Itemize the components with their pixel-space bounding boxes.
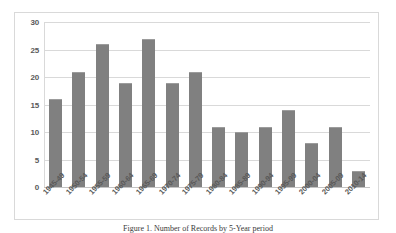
y-tick-label-10: 10 bbox=[31, 128, 40, 137]
bar-1950-54[interactable] bbox=[72, 72, 85, 188]
x-tick-slot: 1985-89 bbox=[230, 187, 253, 221]
bar-slot bbox=[347, 22, 370, 187]
bar-1965-69[interactable] bbox=[142, 39, 155, 188]
y-tick-label-25: 25 bbox=[31, 45, 40, 54]
x-tick-slot: 1995-99 bbox=[277, 187, 300, 221]
x-tick-slot: 1960-64 bbox=[114, 187, 137, 221]
y-tick-label-0: 0 bbox=[35, 183, 39, 192]
bar-slot bbox=[67, 22, 90, 187]
bar-slot bbox=[114, 22, 137, 187]
x-tick-slot: 1945-49 bbox=[44, 187, 67, 221]
bar-1955-59[interactable] bbox=[96, 44, 109, 187]
x-tick-slot: 1975-79 bbox=[184, 187, 207, 221]
x-tick-slot: 2005-09 bbox=[323, 187, 346, 221]
x-axis-tick-labels: 1945-491950-541955-591960-641965-691970-… bbox=[44, 187, 370, 221]
bar-slot bbox=[300, 22, 323, 187]
bar-slot bbox=[230, 22, 253, 187]
bar-slot bbox=[91, 22, 114, 187]
bar-slot bbox=[254, 22, 277, 187]
figure-root: 051015202530 1945-491950-541955-591960-6… bbox=[0, 0, 396, 233]
bar-slot bbox=[44, 22, 67, 187]
y-tick-label-15: 15 bbox=[31, 100, 40, 109]
bar-slot bbox=[207, 22, 230, 187]
bar-slot bbox=[323, 22, 346, 187]
bar-slot bbox=[184, 22, 207, 187]
x-tick-slot: 2010-14 bbox=[347, 187, 370, 221]
figure-caption: Figure 1. Number of Records by 5-Year pe… bbox=[0, 224, 396, 233]
y-tick-label-5: 5 bbox=[35, 155, 39, 164]
bar-slot bbox=[137, 22, 160, 187]
bar-slot bbox=[277, 22, 300, 187]
x-tick-slot: 1965-69 bbox=[137, 187, 160, 221]
x-tick-slot: 1980-84 bbox=[207, 187, 230, 221]
y-tick-label-30: 30 bbox=[31, 18, 40, 27]
y-tick-label-20: 20 bbox=[31, 73, 40, 82]
plot-area: 051015202530 bbox=[44, 22, 370, 187]
bar-1975-79[interactable] bbox=[189, 72, 202, 188]
bar-slot bbox=[160, 22, 183, 187]
x-tick-slot: 1950-54 bbox=[67, 187, 90, 221]
x-tick-slot: 1970-74 bbox=[160, 187, 183, 221]
x-tick-slot: 1990-94 bbox=[254, 187, 277, 221]
bar-series bbox=[44, 22, 370, 187]
chart-frame: 051015202530 1945-491950-541955-591960-6… bbox=[14, 12, 379, 220]
x-tick-slot: 2000-04 bbox=[300, 187, 323, 221]
x-tick-slot: 1955-59 bbox=[91, 187, 114, 221]
